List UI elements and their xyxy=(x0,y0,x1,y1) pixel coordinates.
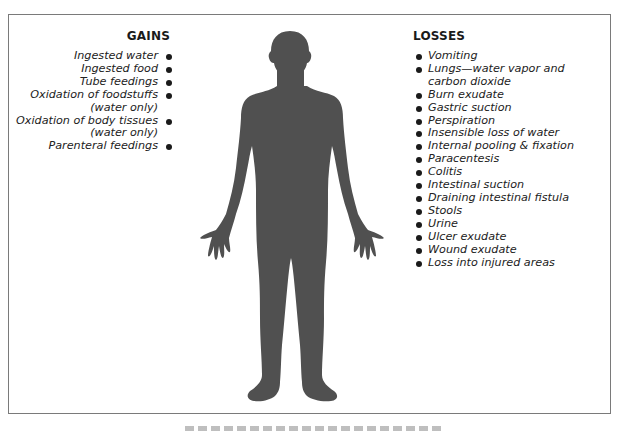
bullet-icon xyxy=(416,106,422,112)
bullet-icon xyxy=(416,235,422,241)
bullet-icon xyxy=(416,119,422,125)
losses-item: Loss into injured areas xyxy=(414,257,574,270)
bullet-icon xyxy=(416,157,422,163)
bullet-icon xyxy=(416,170,422,176)
bullet-icon xyxy=(416,248,422,254)
bullet-icon xyxy=(416,261,422,267)
bullet-icon xyxy=(416,144,422,150)
figure-caption-clipped xyxy=(185,424,445,431)
bullet-icon xyxy=(416,183,422,189)
bullet-icon xyxy=(166,54,172,60)
bullet-icon xyxy=(416,131,422,137)
losses-list: Vomiting Lungs—water vapor andcarbon dio… xyxy=(414,50,574,269)
gains-heading: GAINS xyxy=(127,29,170,43)
bullet-icon xyxy=(416,196,422,202)
bullet-icon xyxy=(166,144,172,150)
losses-item: Lungs—water vapor andcarbon dioxide xyxy=(414,63,574,89)
losses-heading: LOSSES xyxy=(413,29,465,43)
bullet-icon xyxy=(166,80,172,86)
bullet-icon xyxy=(166,119,172,125)
bullet-icon xyxy=(416,209,422,215)
bullet-icon xyxy=(416,54,422,60)
gains-item: Oxidation of body tissues(water only) xyxy=(16,115,172,141)
bullet-icon xyxy=(416,222,422,228)
gains-item: Parenteral feedings xyxy=(16,140,172,153)
gains-list: Ingested water Ingested food Tube feedin… xyxy=(16,50,172,153)
bullet-icon xyxy=(416,93,422,99)
gains-item: Oxidation of foodstuffs(water only) xyxy=(16,89,172,115)
bullet-icon xyxy=(166,93,172,99)
bullet-icon xyxy=(166,67,172,73)
bullet-icon xyxy=(416,67,422,73)
